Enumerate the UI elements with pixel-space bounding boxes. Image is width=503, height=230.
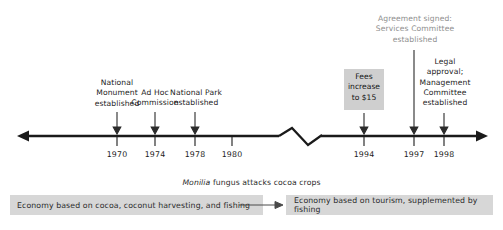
event-label-legal-approval: Legal approval; Management Committee est…	[412, 57, 478, 108]
annotation-monilia-text: fungus attacks cocoa crops	[210, 178, 320, 187]
year-label-1994: 1994	[344, 150, 384, 159]
band-economy-after-label: Economy based on tourism, supplemented b…	[286, 196, 493, 214]
connector-legal-approval	[440, 113, 448, 134]
connector-national-park	[191, 112, 199, 134]
arrow-left-icon	[17, 131, 29, 142]
year-label-1980: 1980	[212, 150, 252, 159]
band-economy-before: Economy based on cocoa, coconut harvesti…	[10, 195, 263, 215]
connector-national-monument	[113, 112, 121, 134]
year-label-1998: 1998	[424, 150, 464, 159]
timeline-ticks	[117, 136, 444, 146]
arrow-right-icon	[476, 131, 488, 142]
connector-ad-hoc-commission	[151, 112, 159, 134]
year-label-1974: 1974	[135, 150, 175, 159]
connector-fees-increase	[360, 113, 368, 134]
band-economy-after: Economy based on tourism, supplemented b…	[286, 195, 493, 215]
annotation-monilia-species: Monilia	[182, 178, 210, 187]
year-label-1978: 1978	[175, 150, 215, 159]
timeline-axis	[17, 128, 488, 145]
timeline-figure: National Monument established Ad Hoc Com…	[0, 0, 503, 230]
annotation-monilia: Monilia fungus attacks cocoa crops	[0, 178, 503, 187]
event-label-national-park: National Park established	[158, 88, 234, 109]
event-label-agreement-signed: Agreement signed: Services Committee est…	[368, 14, 462, 45]
callout-fees-increase: Fees increase to $15	[344, 69, 384, 110]
year-label-1970: 1970	[97, 150, 137, 159]
band-economy-before-label: Economy based on cocoa, coconut harvesti…	[10, 201, 250, 210]
zigzag-break-icon	[279, 128, 322, 145]
